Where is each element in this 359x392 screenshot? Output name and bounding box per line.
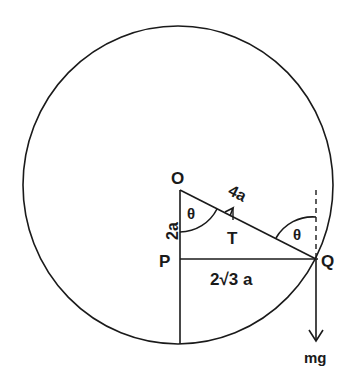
string-OQ xyxy=(180,190,316,259)
angle-arc-O xyxy=(180,209,217,232)
label-PQ-length: 2√3 a xyxy=(210,270,253,289)
label-OQ-length: 4a xyxy=(226,182,250,205)
diagram-canvas: O P Q 4a 2a 2√3 a T θ θ mg xyxy=(0,0,359,392)
label-weight: mg xyxy=(304,349,327,366)
label-angle-O: θ xyxy=(187,205,195,222)
label-P: P xyxy=(159,252,170,271)
label-Q: Q xyxy=(321,252,334,271)
label-angle-Q: θ xyxy=(293,226,301,243)
label-O: O xyxy=(171,169,184,188)
label-OP-length: 2a xyxy=(164,222,181,240)
label-tension: T xyxy=(227,229,238,248)
